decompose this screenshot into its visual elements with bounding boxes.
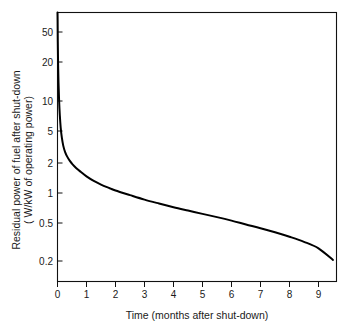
y-tick-label-20: 20 [42,57,54,68]
y-axis-title-line1: Residual power of fuel after shut-down [10,70,22,249]
y-tick-label-0.2: 0.2 [39,256,53,267]
x-axis-title: Time (months after shut-down) [126,309,269,321]
x-axis-ticks [58,282,319,288]
x-tick-label-2: 2 [113,289,119,300]
y-tick-label-0.5: 0.5 [39,218,53,229]
chart-page: 50 20 10 5 2 1 0.5 0.2 0 1 2 3 [0,0,345,332]
x-tick-label-3: 3 [142,289,148,300]
x-axis-tick-labels: 0 1 2 3 4 5 6 7 8 9 [55,289,322,300]
y-axis-title-line2: ( W/kW of operating power) [22,96,34,224]
x-tick-label-0: 0 [55,289,61,300]
x-tick-label-9: 9 [316,289,322,300]
y-tick-label-1: 1 [47,188,53,199]
y-axis-tick-labels: 50 20 10 5 2 1 0.5 0.2 [39,27,53,267]
residual-power-curve [58,13,334,260]
y-tick-label-50: 50 [42,27,54,38]
x-tick-label-6: 6 [229,289,235,300]
y-tick-label-5: 5 [47,126,53,137]
x-tick-label-5: 5 [200,289,206,300]
decay-heat-chart: 50 20 10 5 2 1 0.5 0.2 0 1 2 3 [0,0,345,332]
y-tick-label-10: 10 [42,96,54,107]
x-tick-label-8: 8 [287,289,293,300]
x-tick-label-4: 4 [171,289,177,300]
x-tick-label-7: 7 [258,289,264,300]
y-tick-label-2: 2 [47,158,53,169]
plot-frame [58,13,337,282]
x-tick-label-1: 1 [84,289,90,300]
